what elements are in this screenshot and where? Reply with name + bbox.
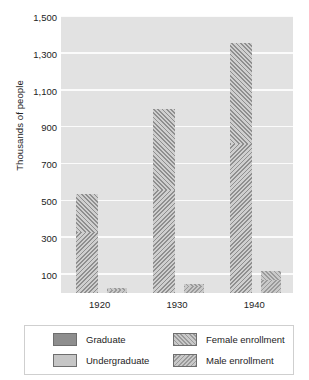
legend-label: Male enrollment — [206, 355, 274, 366]
bar-segment-male-enrollment — [76, 232, 98, 293]
bar-segment-female-enrollment — [76, 194, 98, 233]
legend-swatch-icon — [173, 354, 197, 367]
bar-undergraduate-1940 — [230, 43, 252, 293]
y-axis-tick-label: 900 — [11, 122, 57, 133]
bar-segment-male-enrollment — [107, 290, 127, 293]
bar-segment-female-enrollment — [230, 43, 252, 144]
bar-graduate-1930 — [184, 284, 204, 293]
y-axis-tick-label: 1,300 — [11, 48, 57, 59]
bar-undergraduate-1930 — [153, 109, 175, 293]
legend-item[interactable]: Female enrollment — [173, 333, 285, 346]
bar-segment-male-enrollment — [153, 190, 175, 293]
gridline — [61, 126, 293, 128]
gridline — [61, 16, 293, 18]
x-axis-tick-label: 1940 — [219, 299, 289, 310]
gridline — [61, 89, 293, 91]
legend-item[interactable]: Male enrollment — [173, 354, 274, 367]
bar-segment-female-enrollment — [107, 288, 127, 290]
x-axis-tick-label: 1930 — [142, 299, 212, 310]
gridline — [61, 163, 293, 165]
legend-label: Graduate — [86, 334, 126, 345]
legend-swatch-icon — [173, 333, 197, 346]
x-axis-tick-label: 1920 — [65, 299, 135, 310]
y-axis-tick-label: 100 — [11, 269, 57, 280]
chart-legend: GraduateUndergraduateFemale enrollmentMa… — [24, 325, 294, 375]
legend-swatch-icon — [53, 354, 77, 367]
bar-graduate-1920 — [107, 288, 127, 293]
legend-item[interactable]: Graduate — [53, 333, 126, 346]
gridline — [61, 52, 293, 54]
bar-undergraduate-1920 — [76, 194, 98, 293]
bar-segment-male-enrollment — [184, 287, 204, 293]
legend-label: Undergraduate — [86, 355, 149, 366]
legend-item[interactable]: Undergraduate — [53, 354, 149, 367]
chart-figure: Thousands of people 1,5001,3001,10090070… — [0, 0, 309, 380]
y-axis-tick-label: 700 — [11, 159, 57, 170]
bar-segment-female-enrollment — [261, 271, 281, 280]
legend-label: Female enrollment — [206, 334, 285, 345]
y-axis-tick-label: 500 — [11, 196, 57, 207]
legend-swatch-icon — [53, 333, 77, 346]
y-axis-tick-label: 300 — [11, 232, 57, 243]
bar-segment-female-enrollment — [184, 284, 204, 288]
bar-graduate-1940 — [261, 271, 281, 293]
bar-segment-male-enrollment — [230, 144, 252, 293]
bar-segment-female-enrollment — [153, 109, 175, 190]
plot-area — [61, 17, 293, 293]
bar-segment-male-enrollment — [261, 280, 281, 293]
y-axis-tick-label: 1,100 — [11, 85, 57, 96]
y-axis-tick-label: 1,500 — [11, 12, 57, 23]
